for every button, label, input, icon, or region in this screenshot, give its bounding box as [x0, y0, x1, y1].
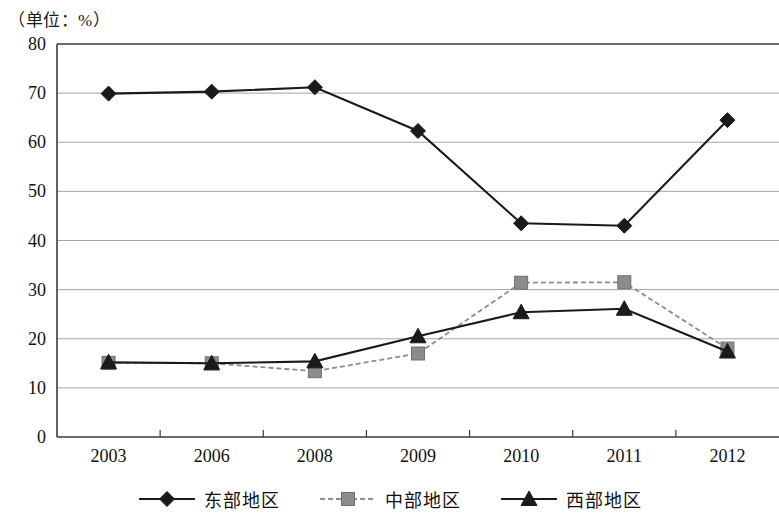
line-chart: （单位：%） 01020304050607080 200320062008200…: [0, 0, 779, 513]
legend-item-1[interactable]: 东部地区: [137, 486, 280, 512]
legend-marker-diamond-icon: [137, 491, 197, 507]
x-axis-tick-label: 2012: [709, 446, 745, 467]
data-point-diamond: [101, 86, 116, 101]
data-point-diamond: [160, 491, 175, 506]
plot-svg: [0, 30, 779, 442]
x-axis-tick-label: 2008: [297, 446, 333, 467]
plot-area: [0, 30, 779, 442]
data-point-square: [515, 276, 528, 289]
x-axis-labels: 2003200620082009201020112012: [57, 446, 779, 476]
legend-item-2[interactable]: 中部地区: [318, 486, 461, 512]
x-axis-tick-label: 2006: [194, 446, 230, 467]
unit-note: （单位：%）: [8, 6, 110, 31]
x-axis-tick-label: 2011: [607, 446, 642, 467]
data-point-square: [618, 276, 631, 289]
legend-label: 东部地区: [204, 486, 280, 512]
x-axis-tick-label: 2009: [400, 446, 436, 467]
series-line: [109, 87, 728, 226]
data-point-square: [412, 347, 425, 360]
data-point-diamond: [204, 84, 219, 99]
legend-marker-triangle-icon: [499, 491, 559, 507]
data-point-diamond: [307, 80, 322, 95]
x-axis-tick-label: 2010: [503, 446, 539, 467]
data-point-square: [342, 492, 355, 505]
chart-legend: 东部地区中部地区西部地区: [0, 484, 779, 513]
legend-item-3[interactable]: 西部地区: [499, 486, 642, 512]
legend-marker-square-icon: [318, 491, 378, 507]
x-axis-tick-label: 2003: [91, 446, 127, 467]
legend-label: 中部地区: [385, 486, 461, 512]
legend-label: 西部地区: [566, 486, 642, 512]
